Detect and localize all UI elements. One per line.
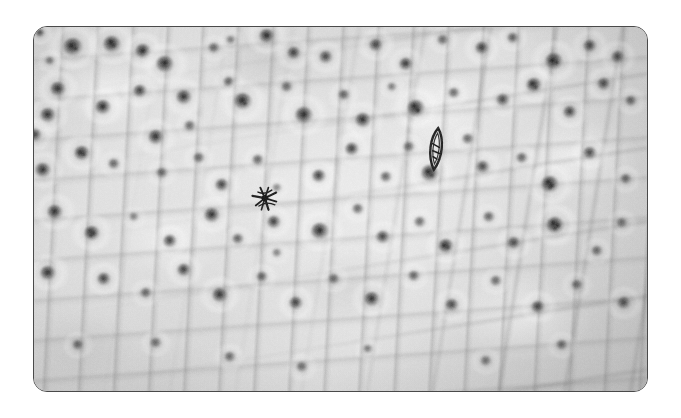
nucleus xyxy=(156,167,168,178)
nucleus xyxy=(133,85,147,98)
nucleus xyxy=(462,133,474,144)
nucleus xyxy=(376,231,390,244)
nucleolus xyxy=(554,227,557,230)
nucleus xyxy=(259,29,275,44)
nucleolus xyxy=(370,297,374,301)
nucleolus xyxy=(141,49,145,53)
nucleolus xyxy=(89,230,92,233)
mitotic-figure-star-icon xyxy=(244,179,288,218)
cell-wall-lattice-horizontal xyxy=(34,27,647,391)
nucleolus xyxy=(556,224,560,228)
nucleus xyxy=(35,28,45,37)
nucleolus xyxy=(182,95,186,99)
nucleolus xyxy=(183,269,186,272)
nucleus xyxy=(97,273,111,286)
nucleolus xyxy=(103,278,106,281)
nucleus xyxy=(563,106,577,119)
nucleus xyxy=(129,212,139,221)
micrograph-figure xyxy=(0,0,681,418)
nucleus xyxy=(234,93,252,110)
tissue-base-layer xyxy=(34,27,647,391)
nucleolus xyxy=(240,99,244,103)
nucleus xyxy=(40,108,56,123)
nucleolus xyxy=(90,235,93,238)
nucleolus xyxy=(431,174,434,177)
nucleolus xyxy=(109,40,113,44)
nucleolus xyxy=(549,186,552,189)
nucleolus xyxy=(375,44,378,47)
nucleolus xyxy=(556,61,559,64)
nucleus xyxy=(108,158,120,169)
nucleus xyxy=(591,245,603,256)
nucleolus xyxy=(603,83,606,86)
nucleolus xyxy=(41,168,45,172)
nucleus xyxy=(176,90,192,105)
nucleus xyxy=(177,264,191,277)
nucleus xyxy=(611,51,625,64)
nucleus xyxy=(204,208,220,223)
nucleus xyxy=(507,237,521,250)
nucleolus xyxy=(546,180,550,184)
nucleolus xyxy=(75,47,78,50)
nucleolus xyxy=(265,34,269,38)
nucleolus xyxy=(382,236,385,239)
nucleus xyxy=(148,130,164,145)
nucleus xyxy=(546,217,564,234)
nucleus xyxy=(150,337,162,348)
nucleolus xyxy=(302,113,306,117)
nucleus xyxy=(74,146,90,161)
nucleus xyxy=(483,211,495,222)
nucleus xyxy=(135,44,151,59)
nucleolus xyxy=(447,247,450,250)
nucleus xyxy=(625,95,637,106)
nucleus xyxy=(545,53,563,70)
nucleus xyxy=(103,36,121,53)
nucleus xyxy=(490,275,502,286)
nucleus xyxy=(448,87,460,98)
nucleus xyxy=(380,171,392,182)
nucleolus xyxy=(569,111,572,114)
nucleus xyxy=(140,287,152,298)
nucleus xyxy=(363,344,373,353)
nucleus xyxy=(556,339,568,350)
nucleolus xyxy=(537,306,540,309)
nucleus xyxy=(328,273,340,284)
nucleus xyxy=(252,154,264,165)
nucleus xyxy=(620,173,632,184)
nucleus xyxy=(311,223,329,240)
nucleus xyxy=(496,94,510,107)
nucleus xyxy=(403,141,415,152)
nucleolus xyxy=(113,44,116,47)
nucleolus xyxy=(405,63,408,66)
nucleolus xyxy=(589,45,592,48)
nucleus xyxy=(507,32,519,43)
nucleolus xyxy=(442,244,446,248)
nucleolus xyxy=(69,44,73,48)
film-grain-light xyxy=(34,27,647,391)
nucleolus xyxy=(169,240,172,243)
nucleus xyxy=(281,81,293,92)
nucleolus xyxy=(46,113,50,117)
nucleus xyxy=(616,217,628,228)
nucleolus xyxy=(451,304,454,307)
nucleolus xyxy=(351,148,354,151)
nucleolus xyxy=(78,151,82,155)
nuclei-layer xyxy=(34,27,647,391)
nucleus xyxy=(480,355,492,366)
nucleus xyxy=(212,288,228,303)
nucleolus xyxy=(623,302,626,305)
nucleolus xyxy=(482,166,485,169)
nucleus xyxy=(208,42,220,53)
nucleus xyxy=(272,248,282,257)
nucleolus xyxy=(513,242,516,245)
nucleolus xyxy=(550,184,554,188)
nucleus xyxy=(296,361,308,372)
nucleolus xyxy=(416,109,420,113)
nucleolus xyxy=(318,175,321,178)
nucleus xyxy=(475,42,489,55)
nucleolus xyxy=(481,47,484,50)
nucleus xyxy=(35,163,51,178)
nucleolus xyxy=(550,59,554,63)
nucleus xyxy=(156,56,174,73)
nucleolus xyxy=(93,233,96,236)
